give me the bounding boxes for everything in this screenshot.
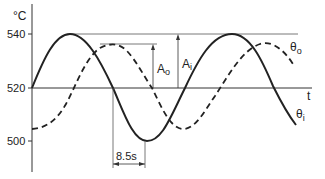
y-unit-label: °C xyxy=(13,9,27,23)
temperature-oscillation-diagram: °C 540 520 500 t Ao Ai 8.5s θo θi xyxy=(0,0,325,179)
tick-label-500: 500 xyxy=(7,135,25,147)
ao-arrowhead-icon xyxy=(151,44,155,50)
output-temperature-curve xyxy=(32,43,293,129)
tick-label-520: 520 xyxy=(7,82,25,94)
ai-label: Ai xyxy=(182,57,192,72)
lag-arrowhead-right-icon xyxy=(139,162,145,166)
lag-label: 8.5s xyxy=(116,150,137,162)
tick-label-540: 540 xyxy=(7,28,25,40)
ai-arrowhead-icon xyxy=(176,34,180,40)
ao-label: Ao xyxy=(157,62,170,77)
lag-arrowhead-left-icon xyxy=(113,162,119,166)
x-axis-label: t xyxy=(307,89,311,103)
theta-i-label: θi xyxy=(296,107,305,123)
theta-o-label: θo xyxy=(290,40,302,56)
